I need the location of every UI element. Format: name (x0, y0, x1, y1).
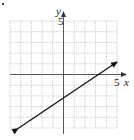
data-line (18, 62, 117, 129)
y-tick-label: 5 (58, 16, 64, 27)
x-axis-label: x (124, 77, 129, 88)
x-tick-label: 5 (114, 77, 120, 88)
chart-plot (0, 0, 134, 140)
